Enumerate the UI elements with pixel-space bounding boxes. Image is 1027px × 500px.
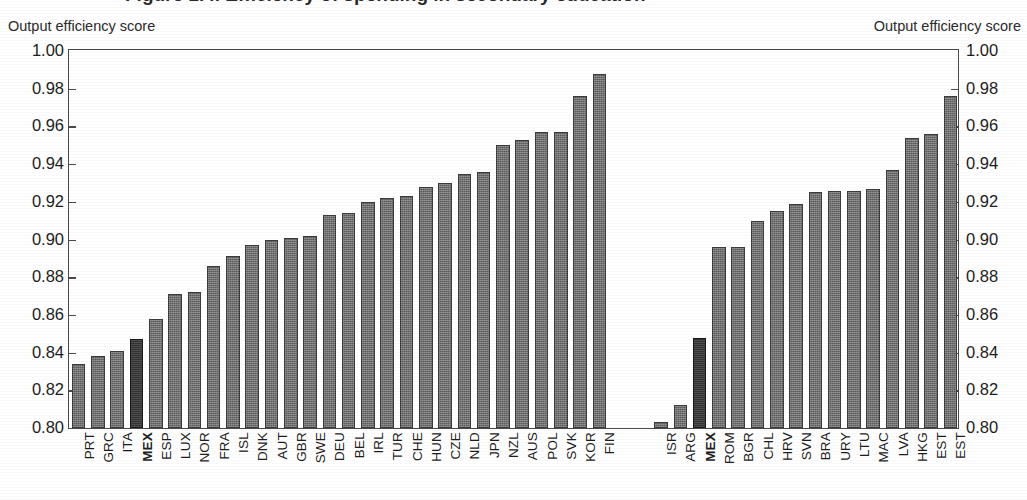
x-axis-category-label: GRC <box>102 432 116 463</box>
x-axis-category-label: FIN <box>603 432 617 454</box>
x-axis-category-label: SVK <box>565 432 579 460</box>
left-axis-caption: Output efficiency score <box>8 18 155 34</box>
x-axis-category-label: LUX <box>179 432 193 459</box>
bar-ury-nonoecd <box>828 191 842 429</box>
y-axis-tick-label: 0.86 <box>966 306 998 323</box>
bar-est-nonoecd <box>944 96 958 428</box>
y-axis-tick-label: 1.00 <box>32 42 64 59</box>
bar-chl-nonoecd <box>751 221 765 428</box>
x-axis-category-label: IRL <box>372 432 386 454</box>
figure-title: Figure 1.4. Efficiency of spending in se… <box>125 0 646 6</box>
bar-irl-oecd <box>361 202 375 428</box>
y-axis-tick-label: 0.88 <box>32 268 64 285</box>
x-axis-category-label: MEX <box>704 432 718 462</box>
bar-arg-nonoecd <box>674 405 688 428</box>
bar-svk-oecd <box>554 132 568 428</box>
y-axis-tick-label: 0.82 <box>32 381 64 398</box>
x-axis-category-label: EST <box>935 432 949 459</box>
bar-nld-oecd <box>458 174 472 428</box>
bar-fra-oecd <box>207 266 221 428</box>
y-axis-tick-label: 0.96 <box>32 117 64 134</box>
y-axis-tick-label: 0.82 <box>966 381 998 398</box>
x-axis-category-label: AUT <box>276 432 290 460</box>
bar-lux-oecd <box>168 294 182 428</box>
bar-aut-oecd <box>265 240 279 429</box>
right-axis-caption: Output efficiency score <box>874 18 1021 34</box>
bar-kor-oecd <box>573 96 587 428</box>
bar-hkg-nonoecd <box>905 138 919 428</box>
bar-lva-nonoecd <box>886 170 900 428</box>
x-axis-category-label: NLD <box>468 432 482 460</box>
bar-mex-nonoecd <box>693 338 707 428</box>
x-axis-category-label: ROM <box>723 432 737 464</box>
x-axis-category-label: PRT <box>83 432 97 459</box>
bar-esp-oecd <box>149 319 163 428</box>
bar-hrv-nonoecd <box>770 211 784 428</box>
x-axis-category-label: MEX <box>141 432 155 462</box>
x-axis-category-label: CZE <box>449 432 463 460</box>
bar-mex-oecd <box>130 339 144 428</box>
x-axis-category-label: HKG <box>916 432 930 462</box>
bar-bra-nonoecd <box>809 192 823 428</box>
bar-cze-oecd <box>438 183 452 428</box>
bar-est-nonoecd <box>924 134 938 428</box>
y-axis-tick-label: 0.86 <box>32 306 64 323</box>
y-axis-tick-label: 0.90 <box>966 231 998 248</box>
bar-isl-oecd <box>226 256 240 428</box>
bar-rom-nonoecd <box>712 247 726 428</box>
x-axis-category-label: BEL <box>353 432 367 458</box>
bar-swe-oecd <box>303 236 317 428</box>
y-axis-tick-label: 0.94 <box>32 155 64 172</box>
bar-grc-oecd <box>91 356 105 428</box>
bar-svn-nonoecd <box>789 204 803 428</box>
bar-mac-nonoecd <box>866 189 880 428</box>
y-axis-tick-label: 1.00 <box>966 42 998 59</box>
x-axis-category-label: URY <box>839 432 853 461</box>
x-axis-category-label: SVN <box>800 432 814 460</box>
x-axis-category-label: SWE <box>314 432 328 463</box>
x-axis-category-label: HUN <box>430 432 444 462</box>
x-axis-labels: PRTGRCITAMEXESPLUXNORFRAISLDNKAUTGBRSWED… <box>0 432 1027 500</box>
figure-title-strip: Figure 1.4. Efficiency of spending in se… <box>0 0 1027 11</box>
x-axis-category-label: GBR <box>295 432 309 462</box>
bar-tur-oecd <box>380 198 394 428</box>
x-axis-category-label: FRA <box>218 432 232 460</box>
x-axis-category-label: CHE <box>411 432 425 461</box>
y-axis-tick-label: 0.92 <box>32 193 64 210</box>
bar-pol-oecd <box>535 132 549 428</box>
bar-fin-oecd <box>593 74 607 428</box>
bar-ita-oecd <box>110 351 124 428</box>
y-axis-tick-label: 0.98 <box>32 80 64 97</box>
bar-ltu-nonoecd <box>847 191 861 429</box>
x-axis-category-label: ARG <box>684 432 698 462</box>
x-axis-category-label: ITA <box>121 432 135 453</box>
x-axis-category-label: MAC <box>877 432 891 463</box>
bar-hun-oecd <box>419 187 433 428</box>
bar-bel-oecd <box>342 213 356 428</box>
y-axis-tick-label: 0.94 <box>966 155 998 172</box>
x-axis-category-label: EST <box>954 432 968 459</box>
x-axis-category-label: ISR <box>665 432 679 455</box>
bar-nor-oecd <box>188 292 202 428</box>
x-axis-category-label: CHL <box>762 432 776 460</box>
bar-gbr-oecd <box>284 238 298 428</box>
x-axis-category-label: HRV <box>781 432 795 461</box>
x-axis-category-label: JPN <box>488 432 502 458</box>
bar-prt-oecd <box>72 364 86 428</box>
bar-nzl-oecd <box>496 145 510 428</box>
bar-dnk-oecd <box>245 245 259 428</box>
x-axis-category-label: NZL <box>507 432 521 458</box>
bar-isr-nonoecd <box>654 422 668 428</box>
y-axis-tick-label: 0.84 <box>32 344 64 361</box>
bar-bgr-nonoecd <box>731 247 745 428</box>
y-axis-tick-label: 0.92 <box>966 193 998 210</box>
bar-deu-oecd <box>323 215 337 428</box>
x-axis-category-label: ESP <box>160 432 174 460</box>
y-axis-tick-label: 0.90 <box>32 231 64 248</box>
chart-plot-area <box>68 49 959 429</box>
x-axis-category-label: AUS <box>526 432 540 460</box>
x-axis-category-label: BRA <box>819 432 833 460</box>
y-axis-tick-label: 0.98 <box>966 80 998 97</box>
x-axis-category-label: LVA <box>897 432 911 456</box>
x-axis-category-label: KOR <box>584 432 598 462</box>
